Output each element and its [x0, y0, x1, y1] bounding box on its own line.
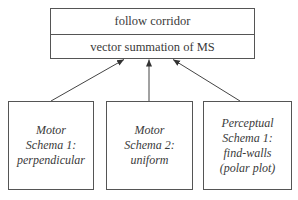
perceptual-schema-1-box: Perceptual Schema 1: find-walls (polar p…	[203, 101, 292, 190]
schema-line: Perceptual	[221, 116, 273, 131]
schema-line: (polar plot)	[220, 161, 276, 176]
schema-line: Motor	[135, 123, 165, 138]
schema-line: Motor	[36, 123, 66, 138]
schema-line: Schema 1:	[26, 138, 76, 153]
schema-line: find-walls	[223, 146, 271, 161]
arrow-schema1-to-summation	[51, 60, 124, 102]
schema-line: Schema 2:	[124, 138, 174, 153]
motor-schema-2-box: Motor Schema 2: uniform	[106, 101, 193, 190]
coordination-function: vector summation of MS	[51, 34, 254, 59]
behavior-name: follow corridor	[51, 9, 254, 33]
schema-line: uniform	[130, 153, 168, 168]
behavior-box: follow corridor vector summation of MS	[50, 8, 255, 59]
schema-line: perpendicular	[17, 153, 85, 168]
schema-line: Schema 1:	[222, 131, 272, 146]
motor-schema-1-box: Motor Schema 1: perpendicular	[8, 101, 94, 190]
arrow-perceptual-to-summation	[173, 60, 240, 102]
